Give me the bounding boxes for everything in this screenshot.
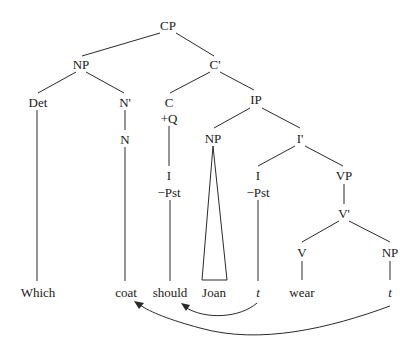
- node-c-i-feature: −Pst: [157, 186, 180, 199]
- leaf-coat: coat: [115, 286, 137, 299]
- node-c-feature: +Q: [161, 112, 178, 125]
- node-n: N: [120, 133, 129, 146]
- node-np-object: NP: [382, 246, 399, 259]
- node-np-subject: NP: [205, 132, 222, 145]
- movement-arrow-i-to-c: [185, 303, 257, 316]
- leaf-which: Which: [21, 286, 56, 299]
- node-cp: CP: [160, 19, 176, 32]
- leaf-should: should: [153, 286, 188, 299]
- leaf-joan: Joan: [202, 286, 226, 299]
- leaf-trace-np: t: [388, 286, 392, 299]
- leaf-trace-i: t: [256, 286, 260, 299]
- node-n-bar: N': [119, 96, 131, 109]
- node-i: I: [256, 169, 260, 182]
- movement-arrow-wh: [140, 305, 390, 335]
- leaf-wear: wear: [289, 286, 314, 299]
- node-v: V: [297, 246, 306, 259]
- node-i-bar: I': [297, 132, 304, 145]
- syntax-tree-diagram: CP NP C' Det N' C +Q IP N NP I' I −Pst I…: [0, 0, 419, 350]
- node-np-spec: NP: [73, 58, 90, 71]
- node-c: C: [165, 96, 174, 109]
- node-ip: IP: [250, 93, 262, 106]
- node-c-i: I: [167, 169, 171, 182]
- node-det: Det: [29, 96, 48, 109]
- node-v-bar: V': [338, 207, 350, 220]
- node-i-feature: −Pst: [246, 186, 269, 199]
- node-vp: VP: [336, 169, 353, 182]
- node-c-bar: C': [209, 58, 220, 71]
